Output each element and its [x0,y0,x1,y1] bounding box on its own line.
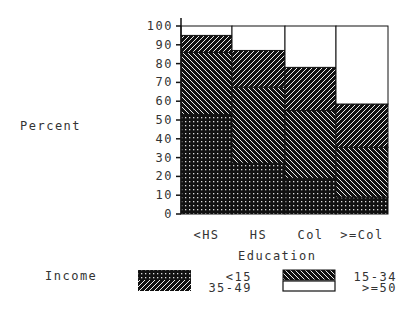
y-tick-label: 10 [156,188,173,202]
bar-segment [181,114,232,214]
y-axis: 0102030405060708090100 [147,18,181,221]
bar-segment [181,35,232,52]
y-tick-label: 50 [156,113,173,127]
bar-segment [336,104,388,147]
x-axis-labels: <HSHSCol>=Col [193,228,383,242]
legend-swatch-lt15 [138,270,191,280]
y-tick-label: 90 [156,38,173,52]
x-tick-label: <HS [193,228,219,242]
y-tick-label: 0 [164,207,173,221]
y-axis-label: Percent [20,119,81,133]
bar-segment [232,50,285,87]
bar-segment [285,111,336,179]
legend-swatch-35-49 [138,280,191,291]
x-axis-label: Education [238,249,317,263]
legend-swatch-gte50 [283,281,335,291]
bar-segment [336,197,388,214]
bar-segment [336,147,388,197]
bar-segment [232,163,285,214]
y-tick-label: 70 [156,75,173,89]
y-tick-label: 20 [156,169,173,183]
legend-label-35-49: 35-49 [208,281,252,295]
bars-group [181,26,388,214]
y-tick-label: 100 [147,19,173,33]
y-tick-label: 30 [156,151,173,165]
bar-segment [232,87,285,163]
y-tick-label: 40 [156,132,173,146]
legend-label-gte50: >=50 [362,281,397,295]
legend-title: Income [45,269,97,283]
bar-segment [336,26,388,104]
bar-segment [232,26,285,50]
x-tick-label: >=Col [340,228,384,242]
y-tick-label: 80 [156,57,173,71]
bar-segment [285,178,336,214]
x-tick-label: Col [297,228,323,242]
legend: Income <15 35-49 15-34 >=50 [45,269,397,295]
bar-segment [285,26,336,67]
bar-segment [285,67,336,110]
x-tick-label: HS [250,228,267,242]
y-tick-label: 60 [156,94,173,108]
bar-segment [181,52,232,114]
bar-segment [181,26,232,35]
legend-swatch-15-34 [283,270,335,280]
stacked-bar-chart: 0102030405060708090100 <HSHSCol>=Col Per… [0,0,418,313]
